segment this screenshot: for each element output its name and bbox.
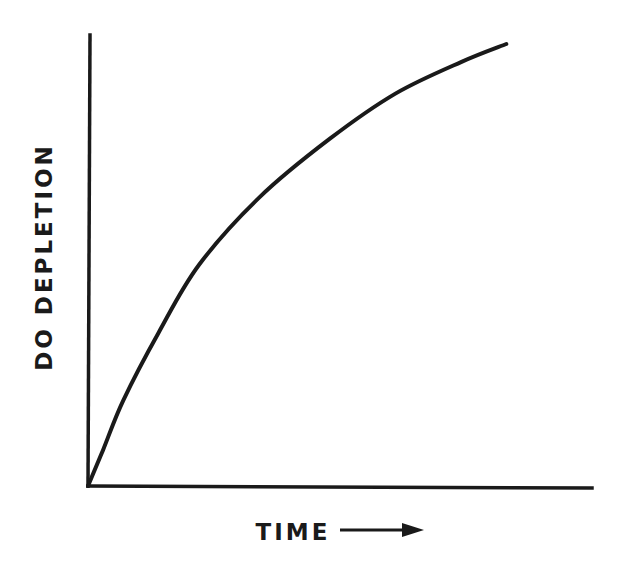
x-axis bbox=[88, 486, 592, 488]
y-axis-label: DO DEPLETION bbox=[31, 143, 57, 371]
y-axis bbox=[88, 35, 90, 486]
arrow-right-icon bbox=[340, 523, 424, 537]
chart: DO DEPLETION TIME bbox=[0, 0, 628, 573]
x-axis-label: TIME bbox=[256, 519, 331, 545]
depletion-curve bbox=[88, 44, 506, 486]
